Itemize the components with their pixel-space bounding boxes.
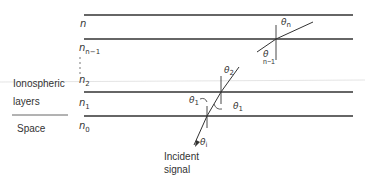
label-theta-2: θ2 <box>224 65 234 77</box>
label-theta-n: θn <box>281 17 291 29</box>
label-theta-i: θi <box>200 137 208 149</box>
label-n-minus-1: nn−1 <box>79 42 100 56</box>
label-signal: signal <box>164 164 190 175</box>
label-n: n <box>80 18 86 29</box>
label-n1: n1 <box>79 97 90 111</box>
label-incident: Incident <box>164 151 199 162</box>
label-theta-1-left: θ1 <box>189 95 199 107</box>
theta1-left-arc <box>200 98 207 102</box>
label-theta-n-minus-1-sub: n−1 <box>263 58 275 65</box>
label-theta-1-right: θ1 <box>233 101 243 113</box>
label-layers: layers <box>13 96 40 107</box>
label-space: Space <box>17 123 46 134</box>
ionospheric-refraction-diagram: n nn−1 n2 n1 n0 Ionospheric layers Space… <box>0 0 365 180</box>
label-n0: n0 <box>79 120 90 134</box>
label-ionospheric: Ionospheric <box>13 78 65 89</box>
label-n2: n2 <box>79 74 90 88</box>
theta1-right-arc <box>214 104 222 109</box>
